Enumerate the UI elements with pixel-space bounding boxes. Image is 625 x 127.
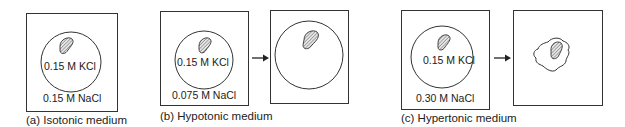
cell-c-shrunken <box>534 38 569 71</box>
inside-label-b: 0.15 M KCl <box>177 56 229 68</box>
inside-label-c: 0.15 M KCl <box>423 54 475 66</box>
outside-label-c: 0.30 M NaCl <box>416 92 474 104</box>
cell-b-swollen <box>275 21 343 89</box>
caption-a: (a) Isotonic medium <box>26 114 127 126</box>
caption-b: (b) Hypotonic medium <box>160 110 272 122</box>
nucleus-b-after-icon <box>303 31 318 49</box>
inside-label-a: 0.15 M KCl <box>44 60 96 72</box>
arrow-b-icon <box>252 55 269 62</box>
nucleus-c-after-icon <box>551 42 562 59</box>
caption-c: (c) Hypertonic medium <box>401 112 517 124</box>
nucleus-a-icon <box>60 38 73 54</box>
nucleus-b-before-icon <box>199 38 211 53</box>
arrow-c-icon <box>494 55 511 62</box>
nucleus-c-before-icon <box>438 35 450 50</box>
outside-label-b: 0.075 M NaCl <box>172 89 236 101</box>
outside-label-a: 0.15 M NaCl <box>43 92 101 104</box>
